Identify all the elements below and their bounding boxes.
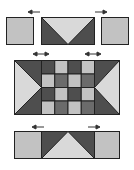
square-left [15, 132, 42, 159]
arrow-left-icon [28, 10, 40, 14]
flying-geese-up [42, 132, 95, 159]
double-arrow-icon [33, 52, 49, 56]
arrow-left-icon [32, 125, 44, 129]
center-row [0, 50, 134, 120]
square-right [102, 18, 129, 45]
square-right [95, 132, 120, 159]
double-arrow-icon [85, 52, 101, 56]
triangle-unit-left [15, 61, 42, 115]
bottom-row [0, 120, 134, 170]
arrow-right-icon [88, 125, 100, 129]
triangle-unit-right [95, 61, 120, 115]
flying-geese-down [42, 18, 95, 45]
top-row [0, 0, 134, 50]
four-patch-grid [42, 61, 95, 115]
arrow-right-icon [95, 10, 107, 14]
square-left [7, 18, 34, 45]
